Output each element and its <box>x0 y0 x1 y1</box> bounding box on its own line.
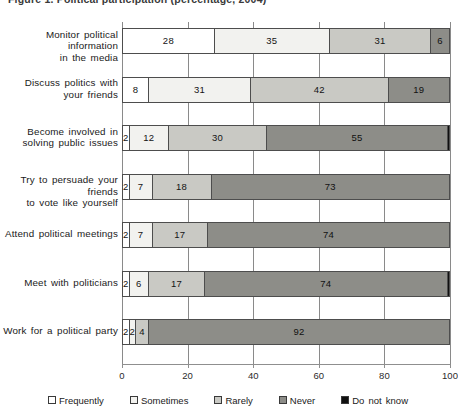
category-label-line: in the media <box>0 52 118 64</box>
stacked-bar: 2123055 <box>122 125 450 151</box>
x-tick-20 <box>188 364 189 368</box>
bar-row[interactable]: 2835316 <box>122 28 450 54</box>
bar-segment-sometimes[interactable]: 7 <box>129 222 152 248</box>
bar-segment-frequently[interactable]: 28 <box>122 28 214 54</box>
segment-value: 18 <box>176 182 187 192</box>
segment-value: 73 <box>325 182 336 192</box>
legend-label: Frequently <box>59 395 104 406</box>
bar-segment-sometimes[interactable]: 35 <box>214 28 329 54</box>
legend-item-sometimes[interactable]: Sometimes <box>130 395 189 406</box>
bar-segment-sometimes[interactable]: 6 <box>129 271 149 297</box>
segment-value: 17 <box>174 230 185 240</box>
x-tick-100 <box>450 364 451 368</box>
category-label: Try to persuade your friendsto vote like… <box>0 174 118 209</box>
bar-segment-sometimes[interactable]: 31 <box>148 77 250 103</box>
segment-value: 12 <box>143 133 154 143</box>
category-label-column: Monitor political informationin the medi… <box>0 22 118 364</box>
bar-segment-do-not-know[interactable] <box>447 271 450 297</box>
x-tick-80 <box>384 364 385 368</box>
segment-value: 74 <box>323 230 334 240</box>
legend-label: Do not know <box>352 395 408 406</box>
bar-segment-never[interactable]: 55 <box>266 125 446 151</box>
bar-row[interactable]: 261774 <box>122 271 450 297</box>
bar-segment-rarely[interactable]: 42 <box>250 77 388 103</box>
bar-segment-never[interactable]: 74 <box>207 222 450 248</box>
segment-value: 92 <box>293 327 304 337</box>
bar-segment-sometimes[interactable]: 7 <box>129 174 152 200</box>
bar-row[interactable]: 2123055 <box>122 125 450 151</box>
x-tick-label-0: 0 <box>119 370 124 381</box>
segment-value: 55 <box>351 133 362 143</box>
legend-item-frequently[interactable]: Frequently <box>48 395 104 406</box>
bar-segment-rarely[interactable]: 17 <box>152 222 208 248</box>
x-tick-0 <box>122 364 123 368</box>
bar-segment-do-not-know[interactable] <box>447 125 450 151</box>
category-label-line: Attend political meetings <box>0 228 118 240</box>
legend-swatch-icon <box>130 396 138 404</box>
category-label-line: solving public issues <box>0 137 118 149</box>
bar-segment-never[interactable]: 74 <box>204 271 447 297</box>
chart-title: Figure 1. Political participation (perce… <box>8 0 448 7</box>
segment-value: 8 <box>133 85 139 95</box>
category-label-line: Meet with politicians <box>0 277 118 289</box>
segment-value: 17 <box>171 279 182 289</box>
legend-item-rarely[interactable]: Rarely <box>214 395 252 406</box>
bar-segment-never[interactable]: 92 <box>148 319 450 345</box>
category-label: Discuss politics withyour friends <box>0 77 118 100</box>
bar-segment-sometimes[interactable]: 12 <box>129 125 168 151</box>
bar-row[interactable]: 8314219 <box>122 77 450 103</box>
bar-segment-never[interactable]: 6 <box>430 28 450 54</box>
category-label-line: Work for a political party <box>0 325 118 337</box>
legend-swatch-icon <box>279 396 287 404</box>
bar-segment-rarely[interactable]: 4 <box>135 319 148 345</box>
category-label: Meet with politicians <box>0 277 118 289</box>
legend-swatch-icon <box>214 396 222 404</box>
stacked-bar: 2835316 <box>122 28 450 54</box>
bar-segment-frequently[interactable]: 8 <box>122 77 148 103</box>
segment-value: 31 <box>374 36 385 46</box>
category-label-line: Try to persuade your friends <box>0 174 118 197</box>
stacked-bar: 271774 <box>122 222 450 248</box>
category-label: Attend political meetings <box>0 228 118 240</box>
category-label: Become involved insolving public issues <box>0 126 118 149</box>
segment-value: 28 <box>163 36 174 46</box>
x-tick-40 <box>253 364 254 368</box>
bar-segment-rarely[interactable]: 17 <box>148 271 204 297</box>
stacked-bar: 8314219 <box>122 77 450 103</box>
segment-value: 74 <box>320 279 331 289</box>
segment-value: 19 <box>413 85 424 95</box>
segment-value: 4 <box>139 327 145 337</box>
x-tick-label-80: 80 <box>379 370 390 381</box>
category-label: Work for a political party <box>0 325 118 337</box>
legend-label: Rarely <box>225 395 252 406</box>
x-tick-label-60: 60 <box>314 370 325 381</box>
stacked-bar: 261774 <box>122 271 450 297</box>
bar-segment-never[interactable]: 73 <box>211 174 450 200</box>
legend-item-never[interactable]: Never <box>279 395 315 406</box>
segment-value: 30 <box>212 133 223 143</box>
x-tick-label-100: 100 <box>442 370 458 381</box>
stacked-bar: 271873 <box>122 174 450 200</box>
bar-segment-rarely[interactable]: 18 <box>152 174 211 200</box>
bar-row[interactable]: 22492 <box>122 319 450 345</box>
legend-swatch-icon <box>341 396 349 404</box>
bar-segment-rarely[interactable]: 31 <box>329 28 431 54</box>
bar-row[interactable]: 271774 <box>122 222 450 248</box>
legend-item-do-not-know[interactable]: Do not know <box>341 395 408 406</box>
category-label-line: Monitor political information <box>0 29 118 52</box>
segment-value: 31 <box>194 85 205 95</box>
x-tick-label-40: 40 <box>248 370 259 381</box>
chart-legend: FrequentlySometimesRarelyNeverDo not kno… <box>0 392 456 408</box>
category-label-line: Become involved in <box>0 126 118 138</box>
category-label-line: Discuss politics with <box>0 77 118 89</box>
segment-value: 6 <box>437 36 443 46</box>
bar-row[interactable]: 271873 <box>122 174 450 200</box>
segment-value: 35 <box>266 36 277 46</box>
category-label-line: to vote like yourself <box>0 197 118 209</box>
legend-label: Never <box>290 395 315 406</box>
bar-segment-never[interactable]: 19 <box>388 77 450 103</box>
bar-segment-rarely[interactable]: 30 <box>168 125 266 151</box>
category-label: Monitor political informationin the medi… <box>0 29 118 64</box>
segment-value: 7 <box>138 230 144 240</box>
